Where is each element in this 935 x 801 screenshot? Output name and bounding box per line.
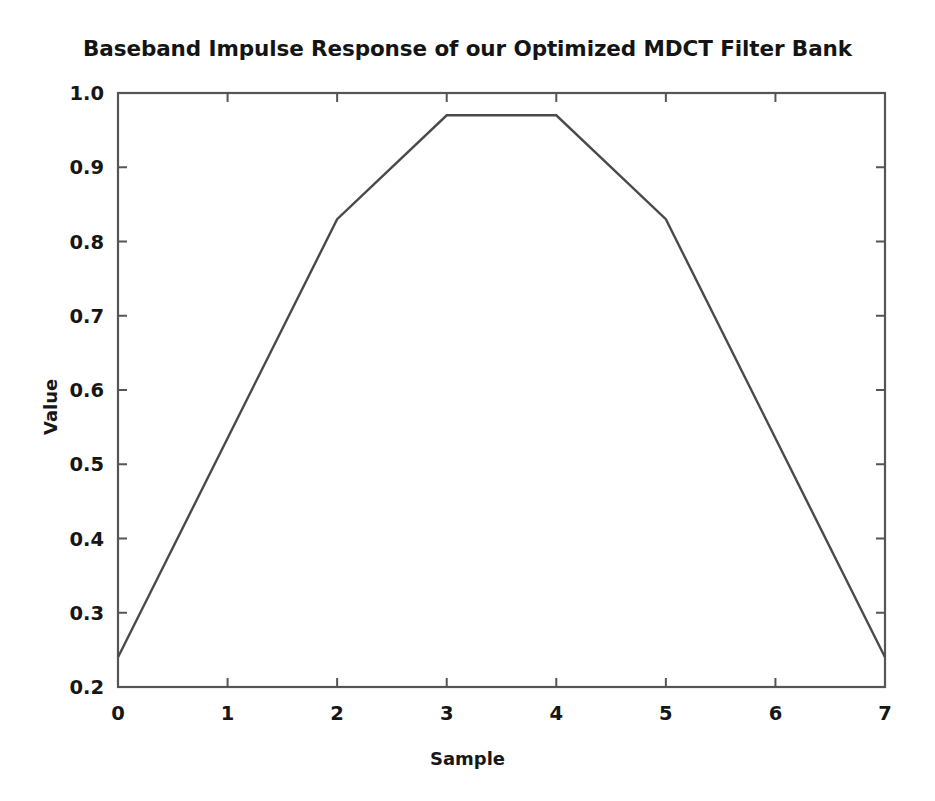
x-tick-label: 5: [659, 702, 673, 725]
x-tick-label: 2: [330, 702, 344, 725]
y-tick-label: 0.3: [69, 602, 104, 625]
x-tick-group: 01234567: [111, 93, 892, 725]
y-tick-label: 0.6: [69, 379, 104, 402]
x-tick-label: 1: [221, 702, 235, 725]
data-series-line: [118, 115, 885, 657]
y-tick-label: 0.8: [69, 231, 104, 254]
y-tick-label: 0.2: [69, 676, 104, 699]
y-tick-label: 0.5: [69, 453, 104, 476]
x-tick-label: 7: [878, 702, 892, 725]
x-tick-label: 0: [111, 702, 125, 725]
y-tick-label: 1.0: [69, 82, 104, 105]
y-tick-group: 0.20.30.40.50.60.70.80.91.0: [69, 82, 885, 699]
y-tick-label: 0.7: [69, 305, 104, 328]
x-tick-label: 6: [769, 702, 783, 725]
chart-figure: Baseband Impulse Response of our Optimiz…: [0, 0, 935, 801]
y-tick-label: 0.9: [69, 156, 104, 179]
plot-frame: [118, 93, 885, 687]
x-tick-label: 3: [440, 702, 454, 725]
plot-area: 0.20.30.40.50.60.70.80.91.0 01234567: [0, 0, 935, 801]
y-tick-label: 0.4: [69, 528, 104, 551]
x-tick-label: 4: [549, 702, 563, 725]
